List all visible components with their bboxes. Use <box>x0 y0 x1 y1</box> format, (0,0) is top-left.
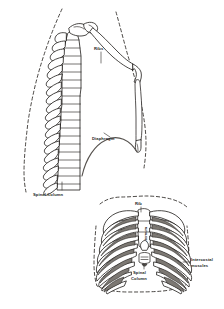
anatomy-illustration: Ribs Diaphragm Spinal Column Sternum <box>0 0 224 309</box>
anterior-ribcage-view: Sternum <box>94 196 213 294</box>
diaphragm-dome <box>82 138 137 176</box>
ribcage-right-half <box>150 211 192 294</box>
lateral-thorax-view: Ribs Diaphragm Spinal Column <box>24 9 146 197</box>
label-rib-anterior: Rib <box>135 201 142 206</box>
label-spinal-column-lateral: Spinal Column <box>33 192 64 197</box>
label-spinal-column-anterior-line2: Column <box>131 276 147 281</box>
anterior-spinal-vertebra <box>139 241 150 267</box>
label-ribs: Ribs <box>94 46 104 51</box>
label-spinal-column-anterior-line1: Spinal <box>133 270 146 275</box>
label-diaphragm: Diaphragm <box>92 136 115 141</box>
label-intercostal-line2: muscles <box>191 263 209 268</box>
lateral-spinal-column <box>43 32 81 196</box>
anatomy-figure: Ribs Diaphragm Spinal Column Sternum <box>0 0 224 309</box>
label-intercostal-line1: Intercostal <box>191 257 213 262</box>
torso-outline-dashed <box>100 196 188 208</box>
ribcage-left-half <box>96 211 138 294</box>
sternum-lateral <box>135 80 142 143</box>
